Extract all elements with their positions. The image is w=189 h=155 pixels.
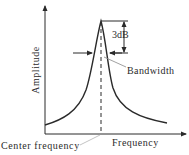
bandwidth-leader (104, 57, 126, 67)
bandwidth-label: Bandwidth (127, 66, 175, 76)
center-frequency-leader (80, 135, 100, 145)
diagram-canvas (0, 0, 189, 155)
3db-label: 3dB (112, 30, 129, 40)
y-axis-label: Amplitude (31, 46, 41, 93)
x-axis-label: Frequency (112, 138, 159, 148)
center-frequency-label: Center frequency (1, 141, 80, 151)
resonance-diagram: Amplitude 3dB Bandwidth Center frequency… (0, 0, 189, 155)
